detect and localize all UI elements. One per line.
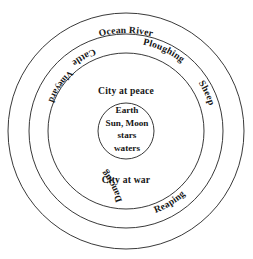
label-ploughing: Ploughing — [142, 36, 187, 65]
label-cattle: Cattle — [70, 47, 98, 69]
label-city-at-war: City at war — [102, 174, 151, 185]
center-line-sun-moon: Sun, Moon — [96, 117, 158, 130]
label-city-at-peace: City at peace — [98, 85, 154, 96]
label-vineyard: Vineyard — [47, 69, 76, 105]
center-line-waters: waters — [96, 142, 158, 155]
center-line-earth: Earth — [96, 104, 158, 117]
center-line-stars: stars — [96, 129, 158, 142]
center-text-block: Earth Sun, Moon stars waters — [96, 104, 158, 154]
concentric-shield-diagram: Ocean River Ploughing Cattle Vineyard Sh… — [0, 0, 253, 259]
